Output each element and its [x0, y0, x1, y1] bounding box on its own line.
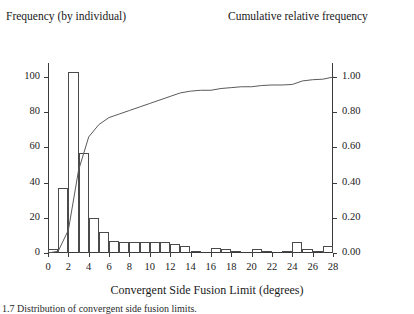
- y-axis-tick: [44, 77, 48, 78]
- y-axis-tick: [44, 112, 48, 113]
- x-axis-tick: [191, 253, 192, 257]
- x-axis-tick: [109, 253, 110, 257]
- x-axis-tick-label: 18: [226, 261, 237, 272]
- x-axis-tick: [170, 253, 171, 257]
- x-axis-tick: [231, 253, 232, 257]
- y2-axis-tick-label: 1.00: [342, 70, 360, 81]
- x-axis-tick: [211, 253, 212, 257]
- y-axis-tick-label: 100: [0, 70, 40, 81]
- plot-area: [48, 63, 333, 253]
- x-axis-tick: [89, 253, 90, 257]
- y-axis-tick: [44, 218, 48, 219]
- y-axis-tick: [44, 183, 48, 184]
- x-axis-tick: [292, 253, 293, 257]
- x-axis-tick-label: 2: [66, 261, 71, 272]
- x-axis-tick-label: 22: [267, 261, 278, 272]
- x-axis-tick: [129, 253, 130, 257]
- y-axis-tick: [44, 147, 48, 148]
- y2-axis-tick-label: 0.00: [342, 246, 360, 257]
- y2-axis-tick: [333, 77, 337, 78]
- y2-axis-tick-label: 0.60: [342, 140, 360, 151]
- x-axis-tick-label: 10: [145, 261, 156, 272]
- y2-axis-tick-label: 0.80: [342, 105, 360, 116]
- x-axis-tick: [48, 253, 49, 257]
- x-axis-tick-label: 0: [45, 261, 50, 272]
- x-axis-tick-label: 14: [185, 261, 196, 272]
- x-axis-tick: [252, 253, 253, 257]
- x-axis-tick-label: 16: [206, 261, 217, 272]
- cumulative-curve: [48, 63, 333, 253]
- y2-axis-tick-label: 0.20: [342, 211, 360, 222]
- x-axis-tick-label: 12: [165, 261, 176, 272]
- x-axis-tick-label: 26: [307, 261, 318, 272]
- y-axis-tick-label: 20: [0, 211, 40, 222]
- x-axis-tick-label: 20: [246, 261, 257, 272]
- y2-axis-tick: [333, 147, 337, 148]
- x-axis-tick: [313, 253, 314, 257]
- y2-axis-tick: [333, 112, 337, 113]
- x-axis-tick: [272, 253, 273, 257]
- x-axis-tick-label: 28: [328, 261, 339, 272]
- x-axis-tick-label: 4: [86, 261, 91, 272]
- y-axis-tick-label: 80: [0, 105, 40, 116]
- y2-axis-tick-label: 0.40: [342, 176, 360, 187]
- y-axis-tick-label: 40: [0, 176, 40, 187]
- x-axis-tick: [150, 253, 151, 257]
- right-axis-title: Cumulative relative frequency: [228, 10, 368, 22]
- y-axis-tick-label: 60: [0, 140, 40, 151]
- figure-caption: 1.7 Distribution of convergent side fusi…: [2, 303, 197, 314]
- x-axis-tick: [333, 253, 334, 257]
- x-axis-tick: [68, 253, 69, 257]
- x-axis-label: Convergent Side Fusion Limit (degrees): [0, 283, 414, 298]
- x-axis-tick-label: 6: [106, 261, 111, 272]
- y2-axis-tick: [333, 218, 337, 219]
- y-axis-tick-label: 0: [0, 246, 40, 257]
- left-axis-title: Frequency (by individual): [6, 10, 126, 22]
- x-axis-tick-label: 24: [287, 261, 298, 272]
- y2-axis-tick: [333, 183, 337, 184]
- x-axis-tick-label: 8: [127, 261, 132, 272]
